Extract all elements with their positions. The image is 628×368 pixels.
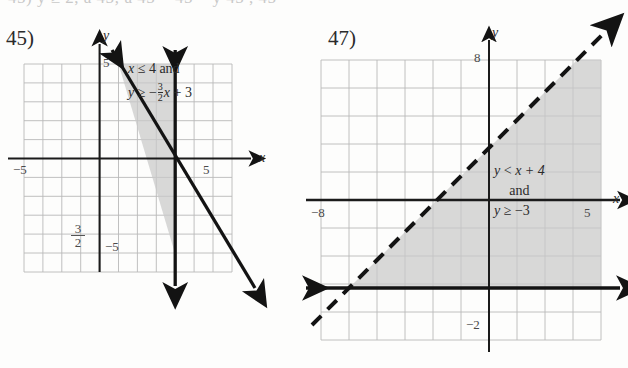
x-axis-label-5-47: 5 <box>584 205 591 221</box>
line3-tail-47: −3 <box>515 203 530 218</box>
inequality-line-2: y ≥ −32x + 3 <box>128 82 192 104</box>
line1-tail-47: x + 4 <box>515 163 545 178</box>
problem-47-panel: 47) <box>314 0 628 368</box>
y-axis-letter-47: y <box>492 25 498 41</box>
problem-45-graph <box>0 0 314 368</box>
problem-47-graph <box>314 0 628 368</box>
fraction-denominator: 2 <box>158 92 163 103</box>
shaded-region-47 <box>349 60 601 288</box>
fraction-label-denominator: 2 <box>71 235 85 249</box>
y-axis-label-neg2-47: −2 <box>466 317 480 333</box>
var-y-47: y <box>494 163 500 178</box>
minus-sign: − <box>149 85 157 100</box>
y-axis-label-neg5-45: −5 <box>105 239 119 255</box>
line2-tail: + 3 <box>174 85 192 100</box>
fraction-label-three-halves-45: 3 2 <box>71 222 85 249</box>
conjunction-and: and <box>494 182 545 200</box>
inequality-line-1: x ≤ 4 and <box>128 60 192 78</box>
x-axis-label-neg5-45: −5 <box>13 162 27 178</box>
var-x-2: x <box>164 85 170 100</box>
y-axis-label-8-47: 8 <box>474 50 481 66</box>
inequality-line-3-47: y ≥ −3 <box>494 202 545 220</box>
y-axis-label-5-top-45: 5 <box>103 55 110 71</box>
var-y: y <box>128 85 134 100</box>
problem-45-system-label: x ≤ 4 and y ≥ −32x + 3 <box>128 60 192 103</box>
x-axis-label-neg8-47: −8 <box>311 205 325 221</box>
fraction-numerator: 3 <box>158 82 163 92</box>
inequality-line-1-47: y < x + 4 <box>494 162 545 180</box>
problem-45-panel: 45) <box>0 0 314 368</box>
fraction-label-numerator: 3 <box>71 222 85 235</box>
problem-47-system-label: y < x + 4 and y ≥ −3 <box>494 162 545 220</box>
x-axis-letter-47: x <box>613 191 619 207</box>
worksheet-page: 45) y ≥ 2, a 45; a 45 = 45 = y 45 , 45 4… <box>0 0 628 368</box>
fraction-three-halves: 32 <box>158 82 163 104</box>
relation-geq-47: ≥ <box>504 203 512 218</box>
var-y-47b: y <box>494 203 500 218</box>
line1-tail: 4 and <box>149 61 180 76</box>
y-axis-letter-45: y <box>103 28 109 44</box>
var-x: x <box>128 61 134 76</box>
x-axis-letter-45: x <box>259 150 265 166</box>
relation-lt: < <box>504 163 512 178</box>
x-axis-label-5-45: 5 <box>203 162 210 178</box>
relation-leq: ≤ <box>138 61 146 76</box>
relation-geq: ≥ <box>138 85 146 100</box>
